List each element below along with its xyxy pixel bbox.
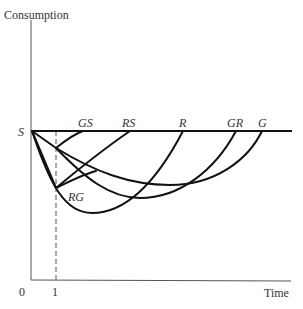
label-gr: GR	[227, 116, 244, 130]
start-point-label: S	[18, 125, 24, 139]
label-rs: RS	[121, 116, 135, 130]
label-g: G	[258, 116, 267, 130]
x-axis	[31, 280, 291, 281]
label-gs: GS	[78, 116, 93, 130]
path-gr-curve	[56, 131, 236, 198]
y-axis-label: Consumption	[4, 8, 69, 22]
consumption-time-diagram: Consumption Time 0 1 S GS RS R GR G RG	[0, 0, 303, 309]
label-r: R	[178, 116, 187, 130]
tick-one-label: 1	[52, 285, 58, 299]
origin-label: 0	[19, 285, 25, 299]
path-gs-curve	[56, 131, 83, 148]
x-axis-label: Time	[264, 286, 289, 300]
label-rg: RG	[67, 190, 84, 204]
path-r-curve	[32, 131, 183, 213]
